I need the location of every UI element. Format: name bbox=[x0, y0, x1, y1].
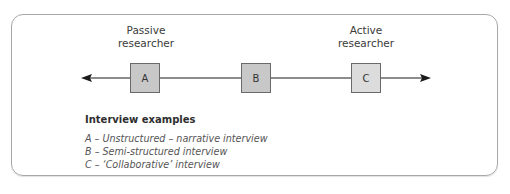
legend-title: Interview examples bbox=[85, 114, 196, 125]
box-a-label: A bbox=[142, 73, 149, 84]
legend-item-b: B – Semi-structured interview bbox=[85, 146, 227, 157]
box-c: C bbox=[351, 63, 381, 93]
continuum-axis bbox=[0, 0, 510, 194]
box-a: A bbox=[130, 63, 160, 93]
legend-item-a: A – Unstructured – narrative interview bbox=[85, 133, 268, 144]
box-b: B bbox=[241, 63, 271, 93]
box-c-label: C bbox=[363, 73, 370, 84]
box-b-label: B bbox=[253, 73, 260, 84]
legend-item-c: C – ‘Collaborative’ interview bbox=[85, 159, 220, 170]
